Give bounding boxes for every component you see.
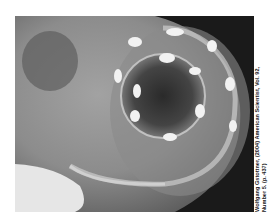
- photo-credit-caption: Wolfgang Gstottner, (2004) American Scie…: [254, 22, 268, 212]
- xray-illustration: [15, 16, 254, 212]
- xray-photo: [15, 16, 254, 212]
- caption-line-1: Wolfgang Gstottner, (2004) American Scie…: [254, 22, 261, 212]
- caption-line-2: Number 5. (p. 437): [261, 22, 268, 212]
